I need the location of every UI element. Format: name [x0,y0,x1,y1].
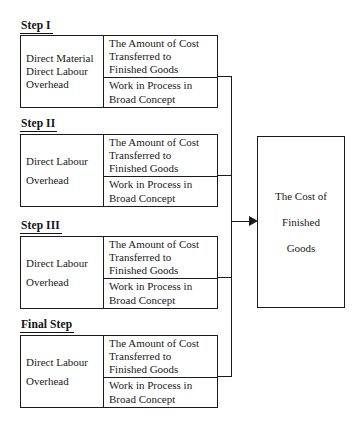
step-box-1: Direct Material Direct Labour Overhead T… [20,35,218,108]
connector-step-1 [218,76,232,77]
step-1-wip-1: Broad Concept [109,93,214,106]
step-4-wip-1: Broad Concept [109,393,214,406]
step-4-inputs-cell: Direct Labour Overhead [21,336,104,407]
step-1-inputs-cell: Direct Material Direct Labour Overhead [21,36,104,107]
step-2-inputs-cell: Direct Labour Overhead [21,135,104,206]
step-1-transferred-1: Transferred to [109,50,214,63]
step-1-transferred-2: Finished Goods [109,63,214,76]
step-label-2: Step II [20,117,57,132]
step-3-inputs-cell: Direct Labour Overhead [21,237,104,308]
result-line-1: Finished [282,209,320,235]
result-line-2: Goods [287,235,316,261]
step-2-input-1: Overhead [26,171,99,190]
step-2-transferred-2: Finished Goods [109,162,214,175]
step-1-wip-cell: Work in Process in Broad Concept [104,78,217,107]
step-1-input-2: Overhead [26,78,99,91]
step-2-transferred-1: Transferred to [109,149,214,162]
step-2-transferred-0: The Amount of Cost [109,136,214,149]
step-1-transferred-0: The Amount of Cost [109,37,214,50]
step-3-transferred-0: The Amount of Cost [109,238,214,251]
result-box-cost-of-finished-goods: The Cost of Finished Goods [257,136,345,308]
step-3-wip-0: Work in Process in [109,280,214,293]
step-3-output-cell: The Amount of Cost Transferred to Finish… [104,237,217,308]
step-4-transferred-2: Finished Goods [109,363,214,376]
step-label-4: Final Step [20,318,74,333]
step-1-input-1: Direct Labour [26,65,99,78]
step-box-3: Direct Labour Overhead The Amount of Cos… [20,236,218,309]
step-4-transferred-cell: The Amount of Cost Transferred to Finish… [104,336,217,378]
step-3-wip-1: Broad Concept [109,294,214,307]
cost-flow-diagram: Step I Direct Material Direct Labour Ove… [0,0,361,434]
step-3-wip-cell: Work in Process in Broad Concept [104,279,217,308]
connector-step-2 [218,175,232,176]
step-label-1: Step I [20,19,53,34]
step-4-wip-0: Work in Process in [109,379,214,392]
step-label-3: Step III [20,219,62,234]
step-1-transferred-cell: The Amount of Cost Transferred to Finish… [104,36,217,78]
step-4-transferred-1: Transferred to [109,350,214,363]
step-2-wip-cell: Work in Process in Broad Concept [104,177,217,206]
step-3-input-0: Direct Labour [26,254,99,273]
connector-step-3 [218,277,232,278]
step-3-input-1: Overhead [26,273,99,292]
step-box-4: Direct Labour Overhead The Amount of Cos… [20,335,218,408]
step-1-output-cell: The Amount of Cost Transferred to Finish… [104,36,217,107]
step-2-input-0: Direct Labour [26,152,99,171]
step-2-wip-1: Broad Concept [109,192,214,205]
connector-step-4 [218,376,232,377]
step-2-wip-0: Work in Process in [109,178,214,191]
step-4-output-cell: The Amount of Cost Transferred to Finish… [104,336,217,407]
connector-vertical-bus [231,76,232,377]
result-line-0: The Cost of [275,183,327,209]
step-1-wip-0: Work in Process in [109,79,214,92]
step-4-input-1: Overhead [26,372,99,391]
step-1-input-0: Direct Material [26,52,99,65]
step-4-input-0: Direct Labour [26,353,99,372]
step-2-output-cell: The Amount of Cost Transferred to Finish… [104,135,217,206]
step-3-transferred-cell: The Amount of Cost Transferred to Finish… [104,237,217,279]
step-4-wip-cell: Work in Process in Broad Concept [104,378,217,407]
step-3-transferred-2: Finished Goods [109,264,214,277]
step-2-transferred-cell: The Amount of Cost Transferred to Finish… [104,135,217,177]
step-4-transferred-0: The Amount of Cost [109,337,214,350]
step-box-2: Direct Labour Overhead The Amount of Cos… [20,134,218,207]
step-3-transferred-1: Transferred to [109,251,214,264]
